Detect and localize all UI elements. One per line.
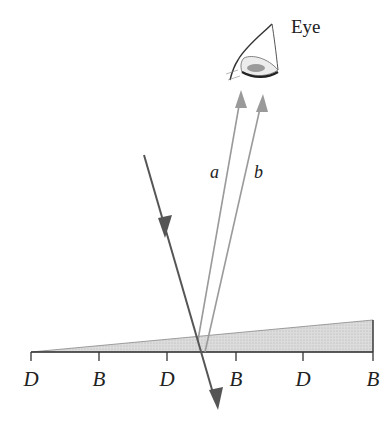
tick-label-bright: B <box>224 367 248 392</box>
eye-label: Eye <box>291 16 321 38</box>
wedge-film <box>31 320 373 352</box>
thin-film-wedge-diagram <box>0 0 392 424</box>
arrowhead-down-icon <box>209 387 223 410</box>
tick-label-bright: B <box>87 367 111 392</box>
ray-b-label: b <box>254 162 263 183</box>
eye-icon <box>226 24 278 80</box>
reflected-ray-a <box>198 90 247 340</box>
tick-label-dark: D <box>19 367 43 392</box>
tick-label-dark: D <box>155 367 179 392</box>
arrowhead-down-icon <box>158 215 172 238</box>
ray-a-label: a <box>210 162 219 183</box>
reflected-ray-b <box>205 94 268 352</box>
arrowhead-up-icon <box>235 90 247 108</box>
tick-label-bright: B <box>361 367 385 392</box>
tick-label-dark: D <box>291 367 315 392</box>
arrowhead-up-icon <box>256 94 268 112</box>
